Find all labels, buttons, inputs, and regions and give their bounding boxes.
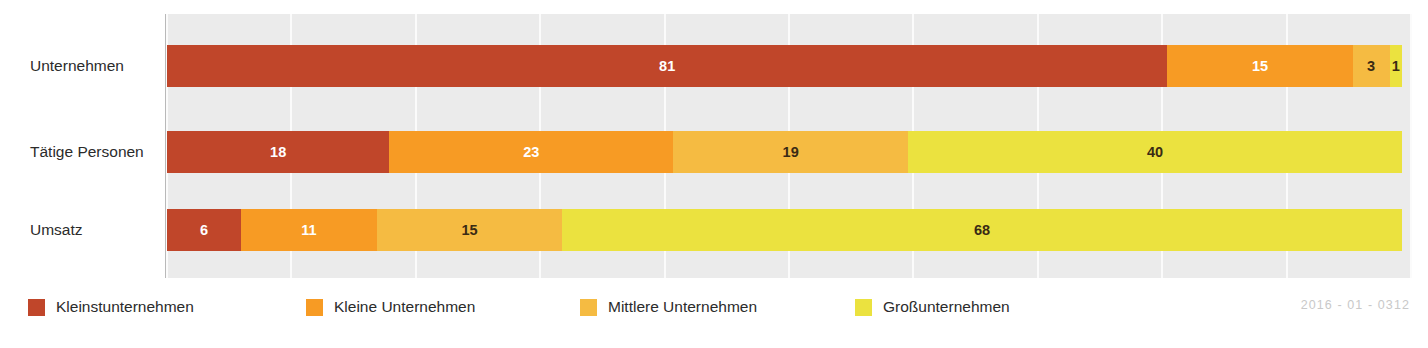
segment-value-label: 68 <box>974 222 990 238</box>
legend-swatch-icon <box>306 299 323 316</box>
segment-value-label: 15 <box>461 222 477 238</box>
legend-item[interactable]: Großunternehmen <box>855 293 1010 321</box>
segment-value-label: 3 <box>1367 58 1375 74</box>
bar-segment: 1 <box>1390 45 1402 87</box>
bar-segment: 23 <box>389 131 673 173</box>
legend-label: Mittlere Unternehmen <box>608 298 757 316</box>
footer-reference-code: 2016 - 01 - 0312 <box>1301 298 1410 312</box>
bar-segment: 6 <box>167 209 241 251</box>
bar-segment: 11 <box>241 209 377 251</box>
segment-value-label: 40 <box>1147 144 1163 160</box>
legend-item[interactable]: Kleine Unternehmen <box>306 293 475 321</box>
bar-segment: 40 <box>908 131 1402 173</box>
legend-swatch-icon <box>580 299 597 316</box>
legend-swatch-icon <box>855 299 872 316</box>
legend-label: Kleine Unternehmen <box>334 298 475 316</box>
legend-label: Kleinstunternehmen <box>56 298 194 316</box>
bar-row: Tätige Personen18231940 <box>0 131 1410 173</box>
bar-segment: 15 <box>377 209 562 251</box>
segment-value-label: 6 <box>200 222 208 238</box>
bar-segment: 68 <box>562 209 1402 251</box>
category-label: Tätige Personen <box>0 131 150 173</box>
segment-value-label: 23 <box>523 144 539 160</box>
bar-segment: 19 <box>673 131 908 173</box>
bar-row: Umsatz6111568 <box>0 209 1410 251</box>
bar-segment: 18 <box>167 131 389 173</box>
stacked-bar: 811531 <box>167 45 1402 87</box>
stacked-bar-chart: Unternehmen811531Tätige Personen18231940… <box>0 0 1428 348</box>
stacked-bar: 6111568 <box>167 209 1402 251</box>
segment-value-label: 1 <box>1392 58 1400 74</box>
stacked-bar: 18231940 <box>167 131 1402 173</box>
legend-item[interactable]: Kleinstunternehmen <box>28 293 194 321</box>
category-label: Unternehmen <box>0 45 150 87</box>
segment-value-label: 18 <box>270 144 286 160</box>
legend-label: Großunternehmen <box>883 298 1010 316</box>
category-label: Umsatz <box>0 209 150 251</box>
legend-item[interactable]: Mittlere Unternehmen <box>580 293 757 321</box>
bar-segment: 3 <box>1353 45 1390 87</box>
segment-value-label: 15 <box>1252 58 1268 74</box>
bar-segment: 15 <box>1167 45 1352 87</box>
segment-value-label: 11 <box>301 222 316 238</box>
legend-swatch-icon <box>28 299 45 316</box>
chart-legend: KleinstunternehmenKleine UnternehmenMitt… <box>0 293 1428 323</box>
bar-row: Unternehmen811531 <box>0 45 1410 87</box>
segment-value-label: 19 <box>783 144 799 160</box>
segment-value-label: 81 <box>659 58 675 74</box>
bar-segment: 81 <box>167 45 1167 87</box>
